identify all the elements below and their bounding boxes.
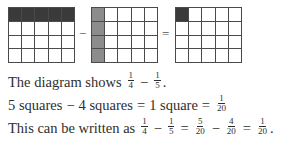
text-line-diagram-shows: The diagram shows 1 4 − 1 5 .	[8, 72, 166, 91]
grid-cell	[216, 36, 229, 50]
grid-cell	[132, 49, 145, 63]
grid-cell	[49, 49, 62, 63]
minus-sign: −	[79, 27, 86, 40]
fraction: 1 20	[257, 117, 268, 136]
line-text: The diagram shows	[8, 73, 122, 91]
grid-cell	[35, 49, 48, 63]
minus-operator: −	[66, 96, 74, 114]
denominator: 5	[168, 127, 175, 136]
grid-cell	[132, 22, 145, 36]
grid-cell	[118, 8, 131, 22]
grid-cell	[216, 22, 229, 36]
denominator: 20	[226, 127, 237, 136]
fraction: 1 4	[141, 117, 148, 136]
grid-cell	[202, 22, 215, 36]
grid-cell	[229, 22, 242, 36]
grid-cell-shaded	[92, 49, 105, 63]
line-text: 1 square	[149, 96, 198, 114]
fraction-diagram: − =	[0, 0, 289, 149]
grid-cell	[62, 36, 75, 50]
grid-cell	[176, 36, 189, 50]
equals-operator: =	[137, 96, 145, 114]
minus-operator: −	[140, 73, 148, 91]
grid-cell-shaded	[62, 8, 75, 22]
grid-cell	[145, 36, 158, 50]
grid-cell	[49, 22, 62, 36]
fraction-one-twentieth: 1 20	[216, 94, 227, 113]
denominator: 5	[154, 81, 161, 90]
fraction: 1 5	[168, 117, 175, 136]
grid-cell	[145, 8, 158, 22]
line-text: This can be written as	[8, 119, 135, 137]
text-line-squares: 5 squares − 4 squares = 1 square = 1 20	[8, 95, 229, 114]
grid-cell	[189, 8, 202, 22]
grid-cell	[105, 36, 118, 50]
grid-cell	[49, 36, 62, 50]
fraction: 4 20	[226, 117, 237, 136]
denominator: 4	[141, 127, 148, 136]
grid-cell	[105, 49, 118, 63]
fraction-one-fifth: 1 5	[154, 71, 161, 90]
grid-cell	[216, 49, 229, 63]
grid-one-twentieth	[175, 7, 242, 63]
period: .	[163, 73, 167, 91]
grid-cell	[176, 22, 189, 36]
denominator: 4	[128, 81, 135, 90]
grid-cell	[9, 36, 22, 50]
grid-cell	[132, 8, 145, 22]
grid-cell	[189, 36, 202, 50]
grid-cell	[189, 49, 202, 63]
grid-cell	[62, 49, 75, 63]
line-text: 5 squares	[8, 96, 62, 114]
grid-one-fifth	[91, 7, 158, 63]
grid-cell	[9, 49, 22, 63]
grid-cell	[22, 49, 35, 63]
grid-cell	[176, 49, 189, 63]
equals-sign: =	[162, 27, 169, 40]
grid-cell	[229, 36, 242, 50]
grid-cell-shaded	[92, 22, 105, 36]
grid-cell	[202, 49, 215, 63]
grid-cell	[202, 8, 215, 22]
grid-cell	[105, 8, 118, 22]
grid-cell	[22, 36, 35, 50]
grid-cell	[145, 49, 158, 63]
grid-one-quarter	[8, 7, 75, 63]
period: .	[270, 119, 274, 137]
grid-cell	[22, 22, 35, 36]
grid-cell-shaded	[176, 8, 189, 22]
grid-cell-shaded	[22, 8, 35, 22]
equals-operator: =	[180, 119, 188, 137]
grid-cell-shaded	[92, 36, 105, 50]
line-text: 4 squares	[79, 96, 133, 114]
grid-cell	[229, 8, 242, 22]
denominator: 20	[216, 104, 227, 113]
fraction: 5 20	[195, 117, 206, 136]
denominator: 20	[257, 127, 268, 136]
grid-cell	[202, 36, 215, 50]
grid-cell	[118, 22, 131, 36]
grid-cell	[229, 49, 242, 63]
grid-cell	[35, 36, 48, 50]
denominator: 20	[195, 127, 206, 136]
grid-cell-shaded	[49, 8, 62, 22]
grid-cell	[9, 22, 22, 36]
grid-cell	[189, 22, 202, 36]
grid-cell	[35, 22, 48, 36]
equals-operator: =	[243, 119, 251, 137]
grid-cell	[118, 36, 131, 50]
grid-cell	[145, 22, 158, 36]
fraction-one-quarter: 1 4	[128, 71, 135, 90]
minus-operator: −	[154, 119, 162, 137]
grid-cell	[216, 8, 229, 22]
grid-cell	[118, 49, 131, 63]
grid-cell	[132, 36, 145, 50]
grid-cell-shaded	[9, 8, 22, 22]
text-line-written-as: This can be written as 1 4 − 1 5 = 5 20 …	[8, 118, 274, 137]
minus-operator: −	[212, 119, 220, 137]
grid-cell	[62, 22, 75, 36]
equals-operator: =	[202, 96, 210, 114]
grid-cell-shaded	[92, 8, 105, 22]
grid-cell	[105, 22, 118, 36]
grid-cell-shaded	[35, 8, 48, 22]
